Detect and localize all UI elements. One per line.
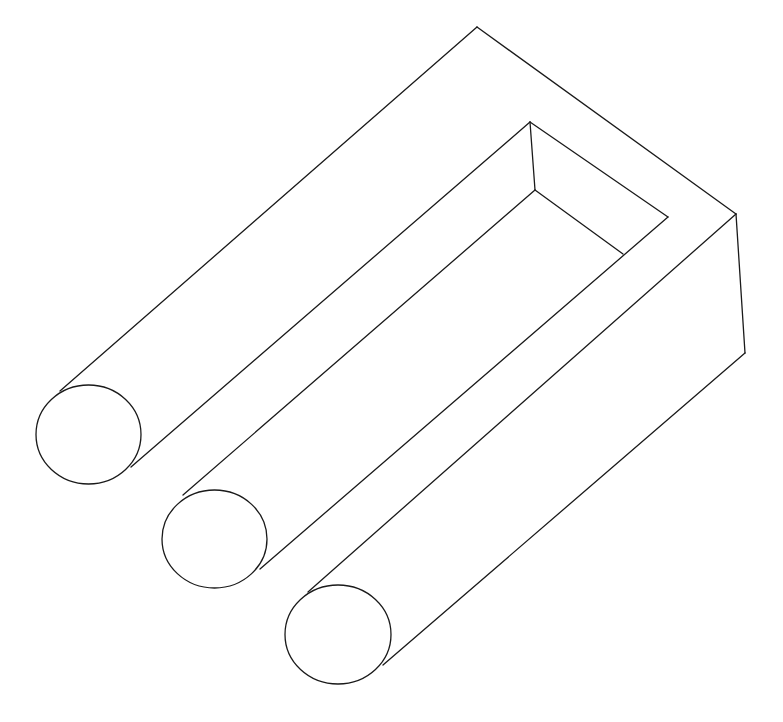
background	[0, 0, 783, 722]
prong-1-end	[36, 385, 141, 484]
prong-3-end	[285, 585, 391, 684]
prong-2-end	[162, 490, 267, 588]
trident-illusion-figure	[0, 0, 783, 722]
trident-drawing	[0, 0, 783, 722]
